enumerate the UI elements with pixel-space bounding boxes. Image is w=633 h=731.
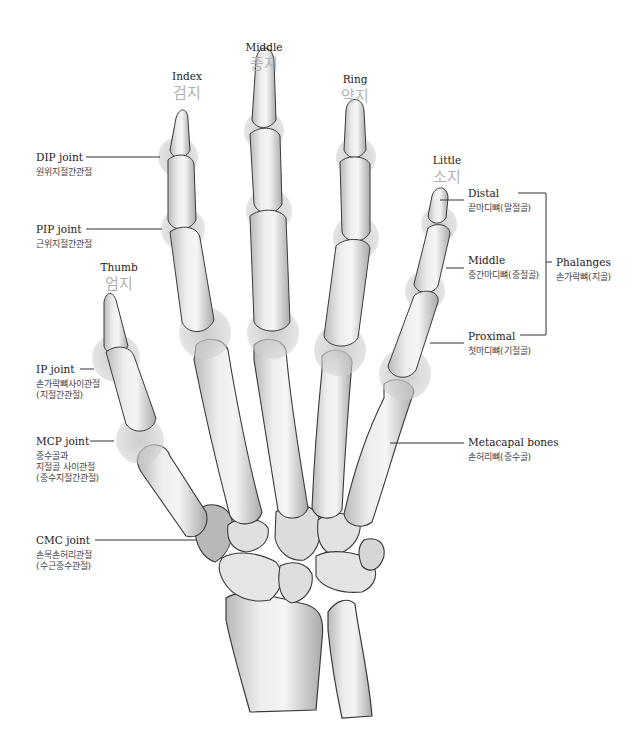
label-en: Proximal [468,331,531,342]
finger-label-en: Index [160,71,214,82]
index-distal [170,110,190,158]
label-dip-joint: DIP joint 원위지절간관절 [36,152,92,178]
label-ko: 손가락뼈사이관절 (지절간관절) [36,379,100,402]
finger-label-en: Ring [328,74,382,85]
middle-middle [250,128,282,213]
ring-distal [344,100,366,158]
radius-bone [226,593,323,712]
label-ko: 끝마디뼈(말절골) [468,203,531,214]
label-en: Metacapal bones [468,437,559,448]
thumb-distal [104,293,128,353]
label-distal-phalanx: Distal 끝마디뼈(말절골) [468,188,531,214]
thumb-proximal [106,347,156,431]
finger-label-ko: 약지 [328,89,382,104]
finger-label-en: Middle [236,42,292,53]
little-proximal [388,291,438,377]
carpal-scaphoid [219,553,281,601]
finger-label-little: Little 소지 [420,155,474,185]
finger-label-ko: 소지 [420,170,474,185]
metacarpal-bones [137,339,414,536]
finger-label-ring: Ring 약지 [328,74,382,104]
label-en: MCP joint [36,436,99,447]
finger-label-ko: 중지 [236,57,292,72]
label-en: PIP joint [36,224,92,235]
label-ko: 근위지절간관절 [36,239,92,250]
label-phalanges: Phalanges 손가락뼈(지골) [556,257,611,283]
label-mcp-joint: MCP joint 중수골과 지절골 사이관절 (중수지절간관절) [36,436,99,484]
label-cmc-joint: CMC joint 손목손허리관절 (수근중수관절) [36,535,92,572]
label-ip-joint: IP joint 손가락뼈사이관절 (지절간관절) [36,364,100,401]
label-ko: 중수골과 지절골 사이관절 (중수지절간관절) [36,451,99,485]
ring-proximal [324,239,370,346]
middle-proximal [250,210,290,331]
label-middle-phalanx: Middle 중간마디뼈(중절골) [468,255,539,281]
label-ko: 첫마디뼈(기절골) [468,346,531,357]
label-en: Phalanges [556,257,611,268]
ring-middle [340,157,370,241]
ulna-bone [328,600,372,718]
little-middle [414,225,450,293]
forearm-bones [226,593,372,718]
little-distal [428,188,448,223]
label-ko: 손목손허리관절 (수근중수관절) [36,550,92,573]
hand-anatomy-diagram: Thumb 엄지 Index 검지 Middle 중지 Ring 약지 Litt… [0,0,633,731]
label-ko: 손허리뼈(중수골) [468,452,559,463]
finger-label-middle: Middle 중지 [236,42,292,72]
label-en: CMC joint [36,535,92,546]
label-metacarpal-bones: Metacapal bones 손허리뼈(중수골) [468,437,559,463]
index-middle [168,155,196,229]
metacarpal-ring [312,350,352,518]
label-en: Distal [468,188,531,199]
index-proximal [170,227,214,331]
label-ko: 손가락뼈(지골) [556,272,611,283]
carpal-pisiform [359,539,384,570]
finger-label-ko: 검지 [160,86,214,101]
label-ko: 원위지절간관절 [36,167,92,178]
finger-label-thumb: Thumb 엄지 [92,262,146,292]
label-pip-joint: PIP joint 근위지절간관절 [36,224,92,250]
finger-label-en: Thumb [92,262,146,273]
finger-label-ko: 엄지 [92,277,146,292]
label-ko: 중간마디뼈(중절골) [468,270,539,281]
metacarpal-little [344,380,414,526]
label-en: IP joint [36,364,100,375]
label-en: Middle [468,255,539,266]
finger-label-index: Index 검지 [160,71,214,101]
carpal-lunate [279,563,313,603]
label-proximal-phalanx: Proximal 첫마디뼈(기절골) [468,331,531,357]
metacarpal-middle [254,339,308,518]
finger-label-en: Little [420,155,474,166]
metacarpal-index [194,339,262,523]
label-en: DIP joint [36,152,92,163]
